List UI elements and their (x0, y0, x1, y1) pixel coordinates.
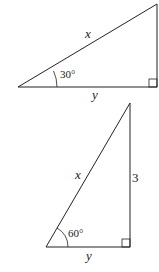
triangle-1-outline (18, 4, 157, 87)
triangle-1-hypotenuse-label: x (84, 26, 91, 41)
triangle-2: x 3 60° y (46, 103, 139, 263)
triangle-2-outline (46, 103, 130, 247)
diagram-canvas: x 30° y x 3 60° y (0, 0, 159, 272)
triangle-2-base-label: y (84, 248, 92, 263)
triangle-1-angle-label: 30° (60, 68, 75, 80)
triangle-1-base-label: y (90, 87, 98, 102)
triangle-1-angle-arc (54, 71, 58, 87)
triangle-2-angle-arc (57, 228, 68, 247)
triangle-2-angle-label: 60° (68, 227, 83, 239)
triangle-1: x 30° y (18, 4, 157, 102)
triangle-2-hypotenuse-label: x (74, 167, 81, 182)
triangle-1-right-angle-marker (149, 79, 157, 87)
triangle-2-right-angle-marker (122, 239, 130, 247)
triangle-2-vertical-side-label: 3 (132, 170, 139, 185)
